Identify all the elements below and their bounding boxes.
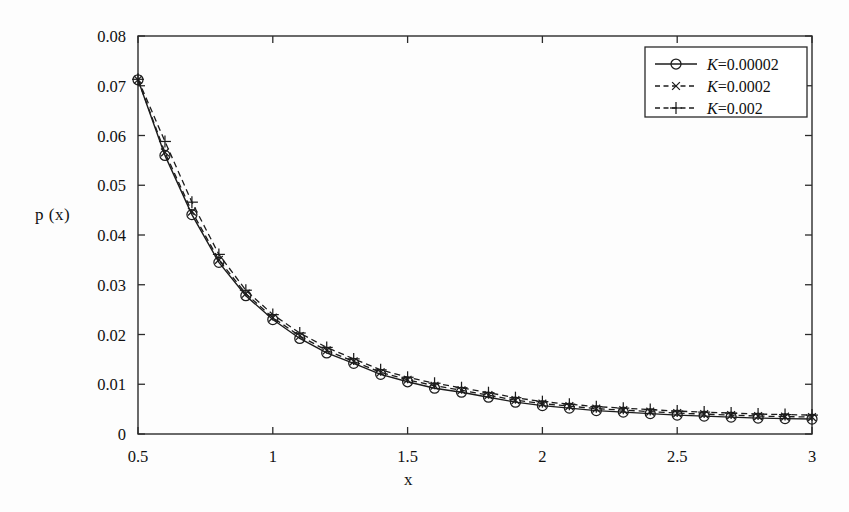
y-tick-label: 0.05 [97, 176, 126, 195]
series-line-circle [138, 80, 812, 419]
chart-figure: 0.511.522.5300.010.020.030.040.050.060.0… [0, 0, 849, 512]
legend-label: K=0.00002 [706, 56, 779, 73]
x-tick-label: 2.5 [667, 447, 688, 466]
y-tick-label: 0.08 [97, 27, 126, 46]
y-tick-label: 0 [118, 425, 126, 444]
y-tick-label: 0.03 [97, 276, 126, 295]
legend-value-text: =0.0002 [718, 78, 771, 95]
x-tick-label: 1 [269, 447, 277, 466]
y-tick-label: 0.04 [97, 226, 126, 245]
legend-label: K=0.002 [706, 100, 763, 117]
legend-value-text: =0.002 [718, 100, 763, 117]
y-tick-label: 0.07 [97, 77, 126, 96]
y-tick-label: 0.02 [97, 326, 126, 345]
legend-value-text: =0.00002 [718, 56, 779, 73]
x-axis-label: x [404, 470, 413, 490]
x-tick-label: 2 [538, 447, 546, 466]
legend-label: K=0.0002 [706, 78, 771, 95]
series-line-cross-x [138, 80, 812, 417]
y-axis-label: p (x) [35, 205, 70, 225]
x-tick-label: 1.5 [397, 447, 418, 466]
x-tick-label: 3 [808, 447, 816, 466]
series-line-plus [138, 79, 812, 415]
plot-canvas: 0.511.522.5300.010.020.030.040.050.060.0… [0, 0, 849, 512]
x-tick-label: 0.5 [128, 447, 149, 466]
y-tick-label: 0.06 [97, 127, 126, 146]
y-tick-label: 0.01 [97, 375, 126, 394]
